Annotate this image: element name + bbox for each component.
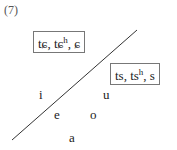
vowel-o: o: [90, 108, 97, 121]
dental-consonants-box: ts, tsh, s: [110, 63, 160, 85]
vowel-u: u: [103, 88, 110, 101]
box-text: , s: [143, 68, 155, 83]
box-text: tɕ, tɕ: [38, 36, 63, 51]
alveolo-palatal-consonants-box: tɕ, tɕh, ɕ: [33, 31, 85, 53]
box-text: ts, ts: [115, 68, 139, 83]
vowel-a: a: [69, 131, 75, 144]
vowel-e: e: [54, 108, 60, 121]
vowel-i: i: [39, 88, 43, 101]
box-text: , ɕ: [68, 36, 80, 51]
